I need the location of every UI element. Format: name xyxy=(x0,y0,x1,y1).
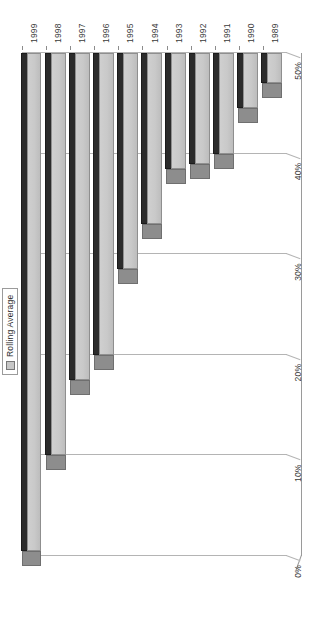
bar-side-face xyxy=(166,169,186,184)
percent-tick-label-10pct: 10% xyxy=(293,464,303,494)
year-axis-tick xyxy=(70,46,71,50)
year-tick-label-1990: 1990 xyxy=(246,0,256,43)
bar-side-face xyxy=(22,551,42,566)
bar-front-face xyxy=(195,53,210,164)
year-tick-label-1997: 1997 xyxy=(77,0,87,43)
year-tick-label-1993: 1993 xyxy=(174,0,184,43)
gridline-depth-segment xyxy=(286,153,300,159)
legend-label-rolling-average: Rolling Average xyxy=(5,295,15,357)
bar-1995 xyxy=(123,53,138,269)
bar-side-face xyxy=(142,224,162,239)
legend-swatch-icon xyxy=(6,361,15,370)
year-axis-tick xyxy=(215,46,216,50)
gridline-depth-segment xyxy=(286,454,300,460)
chart-page: Rolling Average 198919901991199219931994… xyxy=(0,0,333,618)
bar-side-face xyxy=(238,108,258,123)
year-axis-tick xyxy=(239,46,240,50)
bar-front-face xyxy=(267,53,282,83)
bar-side-face xyxy=(46,455,66,470)
year-axis-tick xyxy=(263,46,264,50)
year-axis-tick xyxy=(22,46,23,50)
bar-front-face xyxy=(147,53,162,224)
gridline-depth-segment xyxy=(286,52,300,58)
bar-1992 xyxy=(195,53,210,164)
bar-1998 xyxy=(51,53,66,455)
bar-1993 xyxy=(171,53,186,169)
bar-front-face xyxy=(243,53,258,108)
percent-tick-label-50pct: 50% xyxy=(293,62,303,92)
bar-front-face xyxy=(171,53,186,169)
bar-side-face xyxy=(118,269,138,284)
bar-side-face xyxy=(214,154,234,169)
year-axis-tick xyxy=(46,46,47,50)
gridline-depth-segment xyxy=(286,253,300,259)
plot-area xyxy=(22,53,287,556)
bar-1994 xyxy=(147,53,162,224)
year-tick-label-1991: 1991 xyxy=(222,0,232,43)
year-tick-label-1996: 1996 xyxy=(101,0,111,43)
percent-tick-label-30pct: 30% xyxy=(293,263,303,293)
year-tick-label-1999: 1999 xyxy=(29,0,39,43)
year-tick-label-1995: 1995 xyxy=(125,0,135,43)
gridline-depth-segment xyxy=(286,354,300,360)
bar-1999 xyxy=(27,53,42,551)
bar-1991 xyxy=(219,53,234,154)
year-tick-label-1989: 1989 xyxy=(270,0,280,43)
bar-series-rolling-average xyxy=(22,53,287,556)
percent-tick-label-40pct: 40% xyxy=(293,163,303,193)
year-tick-label-1992: 1992 xyxy=(198,0,208,43)
bar-front-face xyxy=(75,53,90,380)
bar-1990 xyxy=(243,53,258,108)
bar-chart: Rolling Average 198919901991199219931994… xyxy=(0,0,333,618)
year-axis-tick xyxy=(167,46,168,50)
bar-front-face xyxy=(219,53,234,154)
year-tick-label-1998: 1998 xyxy=(53,0,63,43)
year-axis-tick xyxy=(142,46,143,50)
bar-side-face xyxy=(262,83,282,98)
bar-1997 xyxy=(75,53,90,380)
bar-front-face xyxy=(27,53,42,551)
bar-front-face xyxy=(51,53,66,455)
bar-front-face xyxy=(99,53,114,355)
bar-side-face xyxy=(190,164,210,179)
percent-tick-label-0pct: 0% xyxy=(293,565,303,595)
bar-side-face xyxy=(70,380,90,395)
bar-side-face xyxy=(94,355,114,370)
year-axis-tick xyxy=(118,46,119,50)
bar-1989 xyxy=(267,53,282,83)
year-axis-tick xyxy=(191,46,192,50)
gridline-depth-segment xyxy=(286,555,300,561)
bar-front-face xyxy=(123,53,138,269)
bar-1996 xyxy=(99,53,114,355)
year-tick-label-1994: 1994 xyxy=(150,0,160,43)
chart-legend: Rolling Average xyxy=(2,288,18,375)
percent-tick-label-20pct: 20% xyxy=(293,364,303,394)
year-axis-tick xyxy=(94,46,95,50)
rotated-chart-canvas: Rolling Average 198919901991199219931994… xyxy=(0,0,333,618)
